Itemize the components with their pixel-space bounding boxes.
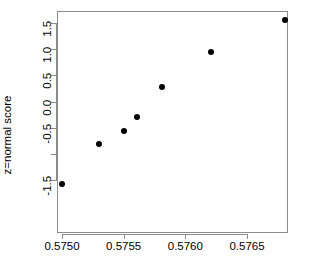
- normal-score-scatter-plot: 1.51.00.50.0-0.5-1.5 0.57500.57550.57600…: [0, 0, 309, 270]
- x-axis-tick: [62, 234, 63, 239]
- x-axis-tick: [185, 234, 186, 239]
- x-axis-tick: [124, 234, 125, 239]
- data-point: [159, 84, 165, 90]
- data-point: [59, 181, 65, 187]
- y-axis-tick-label-text: 0.5: [42, 73, 54, 89]
- y-axis-tick-label-text: -0.5: [42, 123, 54, 143]
- y-axis-tick-label-text: 1.0: [42, 47, 54, 63]
- x-axis-line: [62, 234, 248, 235]
- x-axis-tick: [247, 234, 248, 239]
- x-axis-tick-label: 0.5765: [229, 241, 264, 253]
- x-axis-tick-label: 0.5755: [106, 241, 141, 253]
- data-point: [96, 141, 102, 147]
- y-axis-tick-label-text: 0.0: [42, 99, 54, 115]
- y-axis-line: [56, 23, 57, 181]
- y-axis-tick-label-text: 1.5: [42, 21, 54, 37]
- data-point: [208, 49, 214, 55]
- data-point: [121, 128, 127, 134]
- y-axis-title: z=normal score: [2, 96, 14, 175]
- x-axis-tick-label: 0.5760: [168, 241, 203, 253]
- x-axis-tick-label: 0.5750: [44, 241, 79, 253]
- plot-area-box: [57, 11, 288, 233]
- y-axis-tick-label-text: -1.5: [42, 176, 54, 196]
- y-axis-tick: [51, 154, 56, 155]
